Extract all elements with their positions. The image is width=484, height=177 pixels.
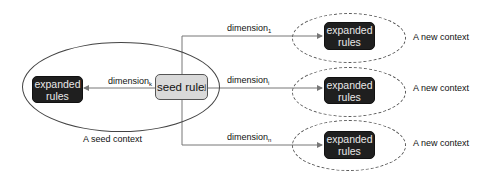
expanded-rules-box-1: expanded rules [324,22,375,50]
edge-label-dimension-i: dimensioni [227,75,269,86]
seed-context-expansion-diagram: expanded rules seed rulej dimensionk A s… [0,0,484,177]
expanded-rules-line2: rules [338,91,361,103]
expanded-rules-box-3: expanded rules [324,131,375,159]
edge-subscript: 1 [268,28,271,34]
edge-text: dimension [227,23,268,33]
expanded-rules-line2: rules [338,36,361,48]
expanded-rules-line1: expanded [326,133,372,145]
edge-subscript: k [149,81,152,87]
new-context-label-3: A new context [413,138,469,148]
new-context-label-2: A new context [413,83,469,93]
expanded-rules-line1: expanded [326,24,372,36]
edge-label-dimension-k: dimensionk [108,76,152,87]
edge-text: dimension [227,132,268,142]
expanded-rules-box-2: expanded rules [324,77,375,104]
expanded-rules-line2: rules [46,90,69,102]
expanded-rules-line1: expanded [326,79,372,91]
edge-subscript: n [268,137,271,143]
seed-rule-subscript: j [204,81,206,93]
edge-text: dimension [108,76,149,86]
new-context-label-1: A new context [413,32,469,42]
edge-label-dimension-1: dimension1 [227,23,271,34]
expanded-rules-box-seed: expanded rules [32,76,83,103]
expanded-rules-line2: rules [338,145,361,157]
edge-subscript: i [268,80,269,86]
expanded-rules-line1: expanded [34,78,80,90]
edge-label-dimension-n: dimensionn [227,132,271,143]
seed-rule-box: seed rulej [155,74,208,100]
seed-context-label: A seed context [83,134,142,144]
edge-text: dimension [227,75,268,85]
seed-rule-text: seed rule [157,81,204,93]
